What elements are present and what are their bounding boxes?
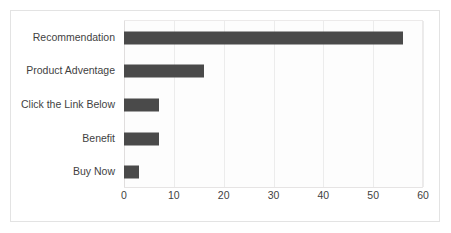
x-tick-label-40: 40: [317, 190, 329, 201]
bar-track: [124, 21, 422, 55]
bar-chart-figure: RecommendationProduct AdventageClick the…: [0, 0, 451, 233]
bar-buy-now[interactable]: [124, 166, 139, 179]
bar-track: [124, 155, 422, 189]
x-tick-label-0: 0: [121, 190, 127, 201]
y-axis-label-buy-now: Buy Now: [10, 166, 124, 177]
bar-product-adventage[interactable]: [124, 65, 204, 78]
y-axis-label-benefit: Benefit: [10, 133, 124, 144]
bar-recommendation[interactable]: [124, 31, 403, 44]
y-axis-label-click-the-link-below: Click the Link Below: [10, 99, 124, 110]
y-axis-label-product-adventage: Product Adventage: [10, 65, 124, 76]
x-axis-tick-labels: 0102030405060: [124, 190, 423, 210]
x-tick-label-50: 50: [367, 190, 379, 201]
bar-track: [124, 88, 422, 122]
x-tick-label-30: 30: [268, 190, 280, 201]
x-tick-label-10: 10: [168, 190, 180, 201]
x-tick-label-20: 20: [218, 190, 230, 201]
plot-area: [124, 20, 423, 188]
y-axis-category-labels: RecommendationProduct AdventageClick the…: [0, 20, 124, 188]
bar-click-the-link-below[interactable]: [124, 98, 159, 111]
y-axis-label-recommendation: Recommendation: [10, 32, 124, 43]
bar-track: [124, 122, 422, 156]
bar-track: [124, 55, 422, 89]
gridline-60: [423, 21, 424, 187]
x-tick-label-60: 60: [417, 190, 429, 201]
bar-benefit[interactable]: [124, 132, 159, 145]
